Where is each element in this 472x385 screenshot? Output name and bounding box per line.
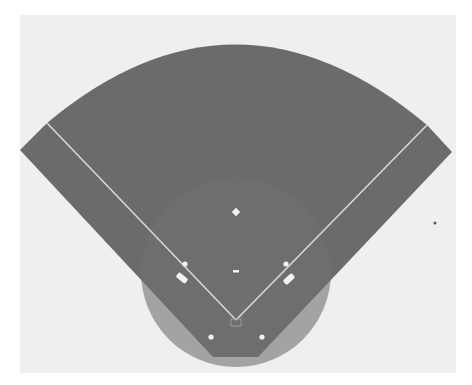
baseball-field-diagram [0,0,472,385]
right-lower-dot [259,334,264,339]
first-base-marker [283,261,288,266]
stray-dot [434,222,437,225]
left-lower-dot [208,334,213,339]
third-base-marker [182,261,187,266]
pitcher-rubber-marker [233,270,239,273]
